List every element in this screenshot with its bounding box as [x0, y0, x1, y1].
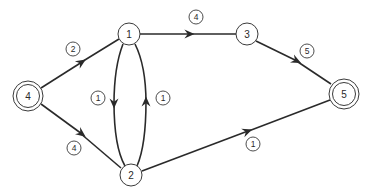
node-2: 2 — [120, 164, 142, 186]
edge-3-to-5 — [256, 41, 331, 84]
edge-2-to-5 — [142, 100, 330, 171]
node-5-label: 5 — [341, 89, 347, 100]
svg-text:1: 1 — [251, 139, 256, 149]
node-4: 4 — [13, 81, 43, 111]
weight-label-2-5: 1 — [246, 137, 260, 151]
svg-text:1: 1 — [96, 93, 101, 103]
weight-label-1-2: 1 — [91, 91, 105, 105]
weight-label-4-1: 2 — [66, 42, 80, 56]
node-2-label: 2 — [128, 170, 134, 181]
edge-4-to-1 — [41, 39, 119, 88]
node-4-label: 4 — [25, 91, 31, 102]
node-5: 5 — [329, 79, 359, 109]
network-diagram: 4 1 2 3 5 2 4 4 1 1 5 1 — [0, 0, 371, 196]
svg-text:4: 4 — [194, 12, 199, 22]
svg-text:5: 5 — [305, 46, 310, 56]
edge-1-to-2 — [114, 44, 125, 166]
svg-text:1: 1 — [161, 93, 166, 103]
svg-text:2: 2 — [71, 44, 76, 54]
node-3-label: 3 — [244, 29, 250, 40]
node-3: 3 — [236, 23, 258, 45]
weight-label-1-3: 4 — [189, 10, 203, 24]
edge-4-to-2 — [41, 104, 121, 168]
node-1-label: 1 — [126, 29, 132, 40]
node-1: 1 — [118, 23, 140, 45]
weight-label-2-1: 1 — [156, 91, 170, 105]
svg-text:4: 4 — [72, 143, 77, 153]
edge-2-to-1 — [135, 44, 146, 166]
weight-label-4-2: 4 — [67, 141, 81, 155]
weight-label-3-5: 5 — [300, 44, 314, 58]
